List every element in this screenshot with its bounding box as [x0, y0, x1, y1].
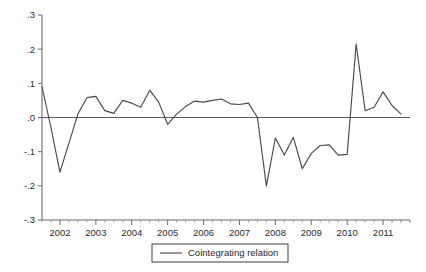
y-axis-tick-label: .0 — [27, 112, 35, 123]
x-axis-tick-label: 2009 — [301, 227, 322, 238]
x-axis-tick-label: 2005 — [157, 227, 178, 238]
legend-label: Cointegrating relation — [188, 247, 278, 258]
y-axis-tick-label: .1 — [27, 78, 35, 89]
x-axis-tick-label: 2004 — [121, 227, 142, 238]
y-axis-tick-label: .2 — [27, 44, 35, 55]
x-axis-tick-label: 2007 — [229, 227, 250, 238]
x-axis-tick-label: 2003 — [85, 227, 106, 238]
y-axis-tick-label: .3 — [27, 9, 35, 20]
x-axis-tick-label: 2008 — [265, 227, 286, 238]
y-axis-tick-label: -.1 — [24, 146, 35, 157]
x-axis-tick-label: 2006 — [193, 227, 214, 238]
series-line-cointegrating-relation — [42, 44, 401, 186]
y-axis-tick-label: -.2 — [24, 180, 35, 191]
chart-canvas: .3.2.1.0-.1-.2-.320022003200420052006200… — [0, 0, 426, 272]
x-axis-tick-label: 2002 — [49, 227, 70, 238]
y-axis-tick-label: -.3 — [24, 214, 35, 225]
x-axis-tick-label: 2010 — [337, 227, 358, 238]
x-axis-tick-label: 2011 — [373, 227, 393, 238]
cointegrating-relation-chart: .3.2.1.0-.1-.2-.320022003200420052006200… — [0, 0, 426, 272]
